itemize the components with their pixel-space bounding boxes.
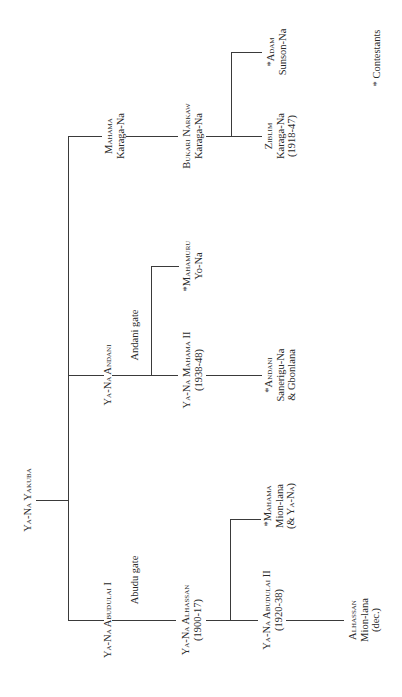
node-title: Sunson-Na [276,29,288,76]
root-connector [36,500,68,501]
node-name: Ya-Na Abudulai II [261,570,273,650]
node-dates: (1920-38) [272,570,284,650]
node-bukari: Bukari Narkaw Karaga-Na [181,103,204,168]
legend-contestants: * Contestants [371,30,382,87]
alhassan-abdulai2-connector [206,620,258,621]
node-abdulai2: Ya-Na Abudulai II (1920-38) [261,570,284,650]
node-name: *Adam [265,29,277,76]
node-dates: (1900-17) [191,585,203,656]
node-name: Bukari Narkaw [181,103,193,168]
abudu-gate-label: Abudu gate [129,556,140,605]
node-title: Karaga-Na [274,113,286,159]
node-name: Ya-Na Alhassan [180,585,192,656]
node-name: Ya-Na Yakuba [22,468,34,531]
node-dates: (1918-47) [286,113,298,159]
node-name: Mahama [103,113,115,159]
abdulai1-connector [68,620,104,621]
node-mahama-mion: *Mahama Mion-lana (& Ya-Na) [262,483,297,529]
mahama-karaga-connector [68,136,102,137]
bukari-ziblim-connector [206,136,262,137]
node-andani-sanerigu: *Andani Sanerigu-Na & Gbonlana [263,348,298,401]
node-name: Ziblim [263,113,275,159]
mahamuru-connector [151,266,179,267]
node-name: Ya-Na Andani [102,345,114,406]
node-name: *Andani [263,348,275,401]
node-title: Karaga-Na [192,103,204,168]
node-ziblim: Ziblim Karaga-Na (1918-47) [263,113,298,159]
node-abdulai1: Ya-Na Abudulai I [102,582,114,658]
node-note: (dec.) [370,598,382,642]
node-title: Sanerigu-Na [274,348,286,401]
mahama-bukari-connector [126,136,178,137]
node-name: *Mahamuru [181,241,193,292]
node-name: Alhassan [347,598,359,642]
abdulai1-alhassan-connector [112,620,176,621]
node-title: Yo-Na [192,241,204,292]
node-adam: *Adam Sunson-Na [265,29,288,76]
main-bracket [68,136,69,621]
abdulai2-bracket [230,519,231,621]
node-note: & Gbonlana [286,348,298,401]
mahama2-bracket [151,266,152,376]
andani-mahama2-connector [112,375,178,376]
mahama2-andani-connector [206,375,262,376]
andani-gate-label: Andani gate [129,309,140,360]
node-mahama-karaga: Mahama Karaga-Na [103,113,126,159]
mahama-mion-connector [230,519,261,520]
abdulai2-alhassan-connector [286,620,344,621]
node-title: Karaga-Na [114,113,126,159]
node-title: Mion-lana [273,483,285,529]
node-name: Ya-Na Abudulai I [102,582,114,658]
bukari-bracket [231,52,232,137]
node-mahamuru: *Mahamuru Yo-Na [181,241,204,292]
node-mahama2: Ya-Na Mahama II (1938-48) [181,332,204,409]
node-alhassan: Ya-Na Alhassan (1900-17) [180,585,203,656]
node-title: Mion-lana [358,598,370,642]
node-andani: Ya-Na Andani [102,345,114,406]
node-name: *Mahama [262,483,274,529]
adam-connector [231,52,262,53]
andani-connector [68,375,104,376]
node-alhassan-mion: Alhassan Mion-lana (dec.) [347,598,382,642]
node-ya-na-yakuba: Ya-Na Yakuba [22,468,34,531]
node-dates: (1938-48) [192,332,204,409]
node-name: Ya-Na Mahama II [181,332,193,409]
node-note: (& Ya-Na) [285,483,297,529]
